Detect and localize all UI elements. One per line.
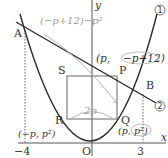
q-coord-circled: p²) [134, 125, 148, 136]
y-axis-label: y [94, 0, 102, 11]
q-coord-prefix: (p, [118, 125, 131, 136]
point-p-label: P [119, 64, 127, 77]
tick-3: 3 [137, 145, 144, 158]
point-s-label: S [58, 64, 66, 77]
r-coord: (−p, p²) [18, 128, 56, 139]
width-expression: 2p [83, 105, 97, 116]
x-axis-label: x [161, 131, 167, 143]
diagram-canvas: 1 2 y x O −4 3 A B P Q R S (p, −p+12) (p… [0, 0, 168, 158]
p-coord-circled: −p+12) [123, 52, 165, 64]
point-a-label: A [13, 27, 23, 40]
point-b-label: B [146, 79, 154, 92]
tick-neg4: −4 [14, 145, 30, 158]
point-r-label: R [55, 114, 64, 127]
marker-1-label: 1 [158, 6, 163, 15]
marker-2-label: 2 [158, 102, 163, 111]
p-coord-prefix: (p, [96, 52, 110, 64]
origin-label: O [82, 145, 91, 158]
height-expression: (−p+12)−p² [40, 15, 102, 26]
